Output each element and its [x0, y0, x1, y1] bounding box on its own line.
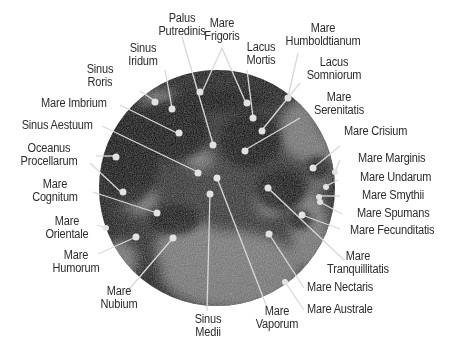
- label-line: Humboldtianum: [283, 35, 362, 48]
- label-line: Mare Imbrium: [41, 97, 107, 110]
- label-mare-marginis: Mare Marginis: [358, 152, 425, 165]
- label-mare-fecunditatis: Mare Fecunditatis: [350, 224, 434, 237]
- label-sinus-aestuum: Sinus Aestuum: [22, 119, 93, 132]
- moon-maria-diagram: Palus Putredinis Mare Frigoris Mare Humb…: [0, 0, 457, 359]
- label-sinus-roris: Sinus Roris: [82, 63, 117, 89]
- label-line: Nubium: [99, 298, 139, 311]
- label-mare-spumans: Mare Spumans: [357, 207, 429, 220]
- label-mare-vaporum: Mare Vaporum: [254, 305, 300, 331]
- label-line: Serenitatis: [307, 104, 370, 117]
- label-line: Mare Fecunditatis: [350, 224, 434, 237]
- label-mare-tranquillitatis: Mare Tranquillitatis: [325, 250, 392, 276]
- label-line: Mare Marginis: [358, 152, 425, 165]
- label-mare-smythii: Mare Smythii: [362, 189, 424, 202]
- label-line: Iridum: [123, 55, 163, 68]
- label-mare-undarum: Mare Undarum: [360, 171, 431, 184]
- label-line: Somniorum: [302, 69, 365, 82]
- label-line: Mare Spumans: [357, 207, 429, 220]
- label-line: Procellarum: [13, 155, 85, 168]
- label-line: Humorum: [50, 262, 103, 275]
- label-line: Tranquillitatis: [325, 263, 392, 276]
- label-mare-crisium: Mare Crisium: [344, 125, 407, 138]
- label-line: Mare Crisium: [344, 125, 407, 138]
- label-line: Sinus Aestuum: [22, 119, 93, 132]
- label-line: Orientale: [43, 228, 91, 241]
- label-sinus-medii: Sinus Medii: [188, 313, 228, 339]
- label-line: Mare Smythii: [362, 189, 424, 202]
- label-mare-imbrium: Mare Imbrium: [41, 97, 107, 110]
- label-line: Mortis: [241, 54, 281, 67]
- label-mare-nubium: Mare Nubium: [99, 285, 139, 311]
- label-mare-serenitatis: Mare Serenitatis: [307, 91, 370, 117]
- label-line: Cognitum: [31, 191, 79, 204]
- label-mare-nectaris: Mare Nectaris: [307, 281, 373, 294]
- label-lacus-mortis: Lacus Mortis: [241, 41, 281, 67]
- label-line: Vaporum: [254, 318, 300, 331]
- label-line: Mare Australe: [307, 303, 373, 316]
- label-mare-orientale: Mare Orientale: [43, 215, 91, 241]
- label-sinus-iridum: Sinus Iridum: [123, 42, 163, 68]
- label-line: Mare Nectaris: [307, 281, 373, 294]
- label-lacus-somniorum: Lacus Somniorum: [302, 56, 365, 82]
- label-line: Roris: [82, 76, 117, 89]
- label-line: Frigoris: [199, 30, 245, 43]
- label-mare-humorum: Mare Humorum: [50, 249, 103, 275]
- moon-disc: [99, 70, 335, 310]
- label-oceanus-procellarum: Oceanus Procellarum: [13, 142, 85, 168]
- label-mare-humboldtianum: Mare Humboldtianum: [283, 22, 362, 48]
- label-line: Medii: [188, 326, 228, 339]
- label-line: Mare Undarum: [360, 171, 431, 184]
- label-mare-frigoris: Mare Frigoris: [199, 17, 245, 43]
- label-mare-cognitum: Mare Cognitum: [31, 178, 79, 204]
- label-mare-australe: Mare Australe: [307, 303, 373, 316]
